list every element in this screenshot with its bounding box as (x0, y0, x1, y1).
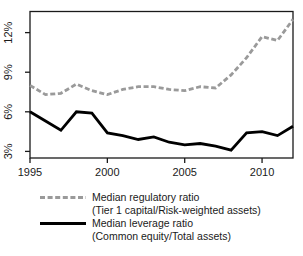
y-axis-tick-label: 9% (2, 64, 14, 80)
x-axis-tick-label: 2000 (95, 166, 119, 178)
y-axis-tick-label: 12% (2, 21, 14, 43)
legend-sublabel-leverage: (Common equity/Total assets) (92, 230, 231, 243)
x-axis-tick-label: 2005 (172, 166, 196, 178)
legend-label-leverage: Median leverage ratio (92, 217, 231, 230)
chart-svg: 3%6%9%12%1995200020052010 (0, 0, 303, 186)
legend-item-regulatory: Median regulatory ratio (Tier 1 capital/… (40, 191, 303, 217)
legend-label-regulatory: Median regulatory ratio (92, 191, 261, 204)
legend-text-leverage: Median leverage ratio (Common equity/Tot… (92, 217, 231, 243)
x-axis-tick-label: 1995 (18, 166, 42, 178)
series-line-0 (30, 19, 293, 94)
series-line-1 (30, 112, 293, 150)
legend-text-regulatory: Median regulatory ratio (Tier 1 capital/… (92, 191, 261, 217)
solid-line-swatch-icon (40, 217, 86, 230)
y-axis-tick-label: 3% (2, 143, 14, 159)
plot-border (30, 12, 293, 159)
x-axis-tick-label: 2010 (250, 166, 274, 178)
dashed-line-swatch-icon (40, 191, 86, 204)
legend-sublabel-regulatory: (Tier 1 capital/Risk-weighted assets) (92, 204, 261, 217)
y-axis-tick-label: 6% (2, 104, 14, 120)
figure: 3%6%9%12%1995200020052010 Median regulat… (0, 0, 303, 256)
legend: Median regulatory ratio (Tier 1 capital/… (0, 191, 303, 243)
legend-item-leverage: Median leverage ratio (Common equity/Tot… (40, 217, 303, 243)
